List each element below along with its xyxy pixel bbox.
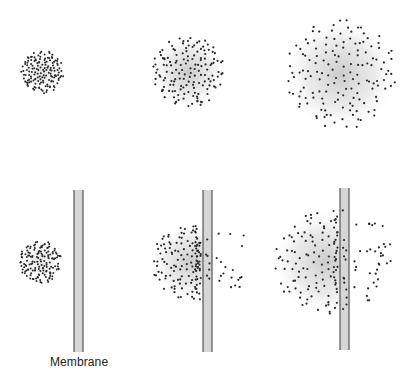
free-diffusion-panel-2: [150, 34, 226, 110]
membrane: [203, 190, 212, 352]
membrane-diffusion-row: [19, 188, 391, 352]
diffusion-through-membrane-panel-3: [271, 188, 392, 350]
diffusion-through-membrane-panel-1: [19, 190, 83, 352]
diffusion-diagram: [0, 0, 415, 379]
free-diffusion-row: [20, 16, 399, 132]
free-diffusion-panel-3: [283, 16, 399, 132]
free-diffusion-panel-1: [20, 51, 64, 94]
membrane-label: Membrane: [50, 355, 108, 369]
diffusion-through-membrane-panel-2: [150, 190, 245, 352]
membrane: [340, 188, 349, 350]
membrane: [74, 190, 83, 352]
